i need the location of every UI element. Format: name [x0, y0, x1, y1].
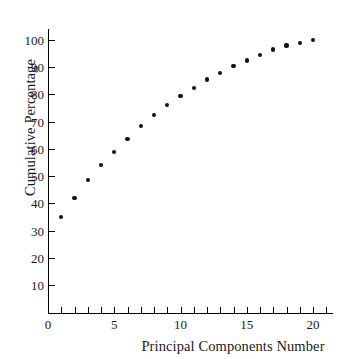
x-axis-tick: [313, 307, 314, 313]
data-point: [112, 150, 116, 154]
x-axis-tick: [181, 307, 182, 313]
data-point: [59, 215, 63, 219]
x-axis-tick: [207, 307, 208, 313]
x-axis-tick: [234, 307, 235, 313]
data-point: [298, 41, 302, 45]
x-axis-tick: [273, 307, 274, 313]
data-point: [218, 71, 222, 75]
y-axis-tick: [49, 176, 55, 177]
data-point: [245, 58, 249, 62]
x-axis-title: Principal Components Number: [120, 338, 346, 355]
x-axis-tick-label: 20: [298, 318, 328, 331]
y-axis-tick: [49, 149, 55, 150]
x-axis-tick: [101, 307, 102, 313]
y-axis-title: Cumulative Percentage: [22, 18, 39, 238]
data-point: [125, 137, 129, 141]
x-axis-tick: [61, 307, 62, 313]
x-axis-tick: [287, 307, 288, 313]
data-point: [258, 53, 262, 57]
x-axis-tick-label: 0: [33, 318, 63, 331]
data-point: [165, 103, 169, 107]
data-point: [178, 94, 182, 98]
y-axis-tick: [49, 231, 55, 232]
chart-container: 102030405060708090100 05101520 Cumulativ…: [0, 0, 346, 359]
x-axis-tick: [88, 307, 89, 313]
data-point: [284, 43, 288, 47]
y-axis-tick-label: 10: [14, 279, 44, 292]
x-axis-tick: [154, 307, 155, 313]
data-point: [152, 113, 156, 117]
x-axis-tick: [300, 307, 301, 313]
data-point: [311, 38, 315, 42]
y-axis-tick-label: 20: [14, 252, 44, 265]
y-axis-tick: [49, 94, 55, 95]
x-axis-tick: [141, 307, 142, 313]
x-axis-line: [48, 313, 333, 314]
x-axis-tick-label: 15: [232, 318, 262, 331]
data-point: [231, 64, 235, 68]
data-point: [139, 124, 143, 128]
x-axis-tick: [220, 307, 221, 313]
x-axis-tick: [326, 307, 327, 313]
x-axis-tick: [75, 307, 76, 313]
data-point: [192, 86, 196, 90]
data-point: [72, 196, 76, 200]
x-axis-tick: [114, 307, 115, 313]
x-axis-tick: [247, 307, 248, 313]
x-axis-tick: [260, 307, 261, 313]
data-point: [86, 178, 90, 182]
x-axis-tick-label: 10: [166, 318, 196, 331]
plot-area: 102030405060708090100 05101520: [0, 0, 346, 359]
y-axis-tick: [49, 203, 55, 204]
x-axis-tick-label: 5: [99, 318, 129, 331]
y-axis-tick: [49, 258, 55, 259]
data-point: [271, 47, 275, 51]
data-point: [99, 163, 103, 167]
data-point: [205, 77, 209, 81]
x-axis-tick: [194, 307, 195, 313]
y-axis-tick: [49, 40, 55, 41]
x-axis-tick: [128, 307, 129, 313]
y-axis-tick: [49, 67, 55, 68]
y-axis-tick: [49, 285, 55, 286]
y-axis-tick: [49, 122, 55, 123]
y-axis-line: [48, 29, 49, 314]
x-axis-tick: [167, 307, 168, 313]
